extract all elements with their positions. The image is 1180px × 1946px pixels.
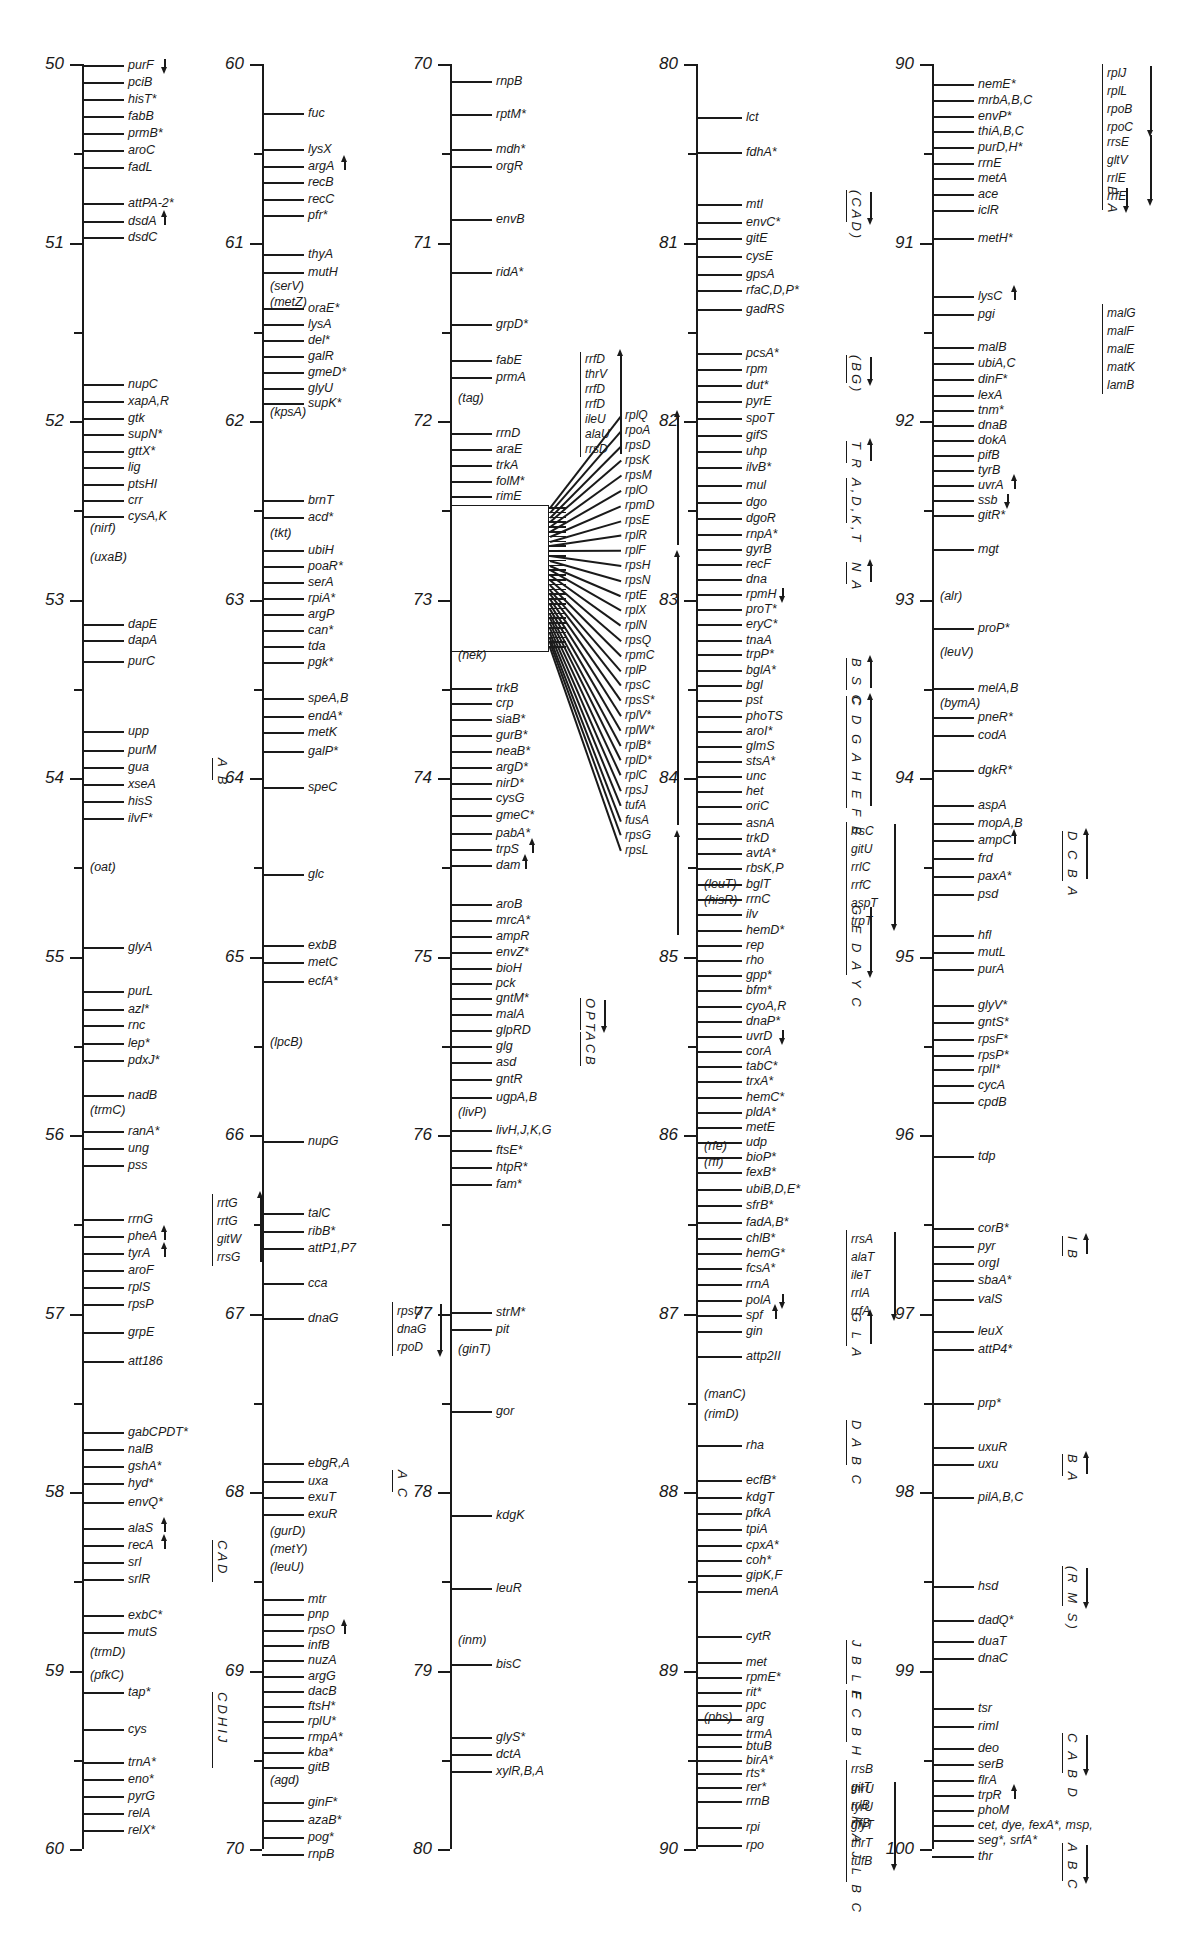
minute-label: 50 [24, 54, 64, 74]
gene-marker-line [262, 630, 304, 632]
transcription-arrow-icon [870, 564, 872, 582]
gene-marker-line [450, 833, 492, 835]
minute-label: 97 [874, 1304, 914, 1324]
minute-label: 85 [638, 947, 678, 967]
direction-arrow-icon [775, 1309, 777, 1319]
gene-marker-line [932, 314, 974, 316]
transcription-arrow-icon [870, 443, 872, 461]
gene-marker-line [262, 582, 304, 584]
operon-gene-label: malF [1107, 322, 1134, 340]
gene-label: fexB* [746, 1165, 776, 1179]
gene-label: seg*, srfA* [978, 1833, 1037, 1847]
gene-marker-line [932, 379, 974, 381]
gene-label: pabA* [496, 826, 530, 840]
operon-gene-label: rrsC [851, 822, 874, 840]
gene-label: tpiA [746, 1522, 768, 1536]
minute-tick [920, 64, 932, 66]
gene-marker-line [932, 1840, 974, 1842]
gene-label: glyS* [496, 1730, 525, 1744]
gene-label: cca [308, 1276, 327, 1290]
minute-tick [250, 600, 262, 602]
ribosomal-gene-label: rpsS* [625, 693, 654, 708]
gene-marker-line [932, 210, 974, 212]
operon-gene-label: gltV [1107, 151, 1128, 169]
operon-bracket [580, 1032, 581, 1066]
operon-gene-label: matK [1107, 358, 1135, 376]
gene-label: pgk* [308, 655, 333, 669]
operon-bracket [846, 1420, 847, 1465]
gene-label: fam* [496, 1177, 522, 1191]
ribosomal-stub [548, 617, 566, 619]
gene-label: fcsA* [746, 1261, 775, 1275]
minute-tick [920, 1671, 932, 1673]
gene-marker-line [450, 735, 492, 737]
gene-label: rpm [746, 362, 768, 376]
gene-label: dsdA [128, 214, 157, 228]
gene-marker-line [82, 731, 124, 733]
operon-cistron-label: D A B C [849, 1420, 864, 1487]
ribosomal-stub [548, 632, 566, 634]
gene-marker-line [262, 182, 304, 184]
gene-label: thyA [308, 247, 333, 261]
ribosomal-gene-label: fusA [625, 813, 649, 828]
operon-bracket [846, 1312, 847, 1346]
gene-marker-line [932, 1263, 974, 1265]
gene-marker-line [82, 516, 124, 518]
gene-marker-line [932, 1331, 974, 1333]
minute-tick [70, 64, 82, 66]
gene-marker-line [262, 646, 304, 648]
gene-marker-line [82, 1830, 124, 1832]
gene-label: rit* [746, 1685, 761, 1699]
gene-marker-line [932, 876, 974, 878]
transcription-arrow-icon [1086, 1568, 1088, 1604]
transcription-arrow-icon [870, 357, 872, 381]
gene-label: uvrA [978, 478, 1004, 492]
gene-label: prmB* [128, 126, 163, 140]
gene-marker-line [450, 798, 492, 800]
operon-cistron-label: C A B D [1065, 1733, 1080, 1800]
minute-label: 68 [204, 1482, 244, 1502]
gene-marker-line [696, 685, 742, 687]
operon-gene-label: thrU [851, 1780, 874, 1798]
gene-marker-line [932, 858, 974, 860]
gene-marker-line [82, 1432, 124, 1434]
gene-marker-line [82, 1796, 124, 1798]
half-minute-tick [688, 153, 696, 155]
half-minute-tick [442, 1581, 450, 1583]
half-minute-tick [74, 1760, 82, 1762]
gene-label: bioP* [746, 1150, 776, 1164]
gene-label: kba* [308, 1745, 333, 1759]
gene-marker-line [262, 517, 304, 519]
gene-label: mtl [746, 197, 763, 211]
gene-marker-line [450, 751, 492, 753]
gene-marker-line [932, 147, 974, 149]
gene-marker-line [696, 1575, 742, 1577]
direction-arrow-icon [1007, 494, 1009, 504]
gene-marker-line [262, 1213, 304, 1215]
gene-marker-line [262, 1318, 304, 1320]
gene-label: ptsHI [128, 477, 157, 491]
gene-label: trpS [496, 842, 519, 856]
gene-marker-line [696, 1591, 742, 1593]
minute-tick [438, 1492, 450, 1494]
gene-label: stsA* [746, 754, 775, 768]
gene-marker-line [696, 1315, 742, 1317]
minute-tick [920, 957, 932, 959]
gene-marker-line [450, 114, 492, 116]
gene-label: polA [746, 1293, 771, 1307]
operon-gene-label: rpoB [1107, 100, 1132, 118]
gene-marker-line [932, 1825, 974, 1827]
gene-label: speA,B [308, 691, 348, 705]
gene-marker-line [82, 467, 124, 469]
minute-tick [684, 1849, 696, 1851]
gene-label: rnpB [308, 1847, 334, 1861]
operon-gene-label: malE [1107, 340, 1134, 358]
gene-marker-line [82, 1219, 124, 1221]
gene-label: glyV* [978, 998, 1007, 1012]
gene-label: bglA* [746, 663, 776, 677]
gene-label: dadQ* [978, 1613, 1013, 1627]
tentative-gene-label: (kpsA) [270, 405, 306, 419]
ribosomal-stub [548, 627, 566, 629]
gene-marker-line [82, 1148, 124, 1150]
gene-marker-line [696, 534, 742, 536]
